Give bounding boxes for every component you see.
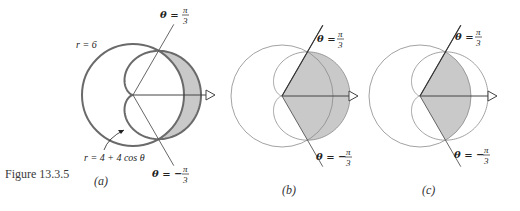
pointer-arrowhead-icon (118, 130, 124, 134)
three-b-top: 3 (337, 40, 343, 50)
circle-label: r = 6 (76, 39, 97, 50)
theta-neg-label-a: θ = − (152, 168, 182, 179)
pi-a-top: π (183, 5, 188, 15)
ray-pos-pi-3 (133, 24, 174, 95)
three-a-bot: 3 (182, 175, 188, 185)
panel-a (82, 24, 215, 165)
pi-a-bot: π (183, 164, 188, 174)
pi-b-bot: π (346, 147, 351, 157)
theta-pos-label-b: θ = (317, 33, 336, 44)
pi-c-bot: π (484, 145, 489, 155)
theta-neg-label-b: θ = − (316, 151, 346, 162)
theta-pos-label-c: θ = (455, 31, 474, 42)
cardioid-label: r = 4 + 4 cos θ (84, 152, 145, 163)
pi-c-top: π (476, 27, 481, 37)
axis-arrow-icon (206, 90, 215, 100)
three-c-top: 3 (475, 38, 481, 48)
three-a-top: 3 (182, 16, 188, 26)
axis-arrow-icon (488, 91, 497, 101)
subcaption-a: (a) (94, 174, 108, 189)
theta-neg-label-c: θ = − (454, 149, 484, 160)
pi-b-top: π (338, 29, 343, 39)
figure-caption: Figure 13.3.5 (5, 167, 69, 182)
axis-arrow-icon (349, 91, 358, 101)
subcaption-c: (c) (422, 183, 435, 198)
three-c-bot: 3 (483, 156, 489, 166)
subcaption-b: (b) (282, 183, 296, 198)
theta-pos-label-a: θ = (160, 9, 179, 20)
figure-canvas: r = 6 r = 4 + 4 cos θ θ = π 3 θ = − π 3 … (0, 0, 520, 211)
three-b-bot: 3 (345, 158, 351, 168)
